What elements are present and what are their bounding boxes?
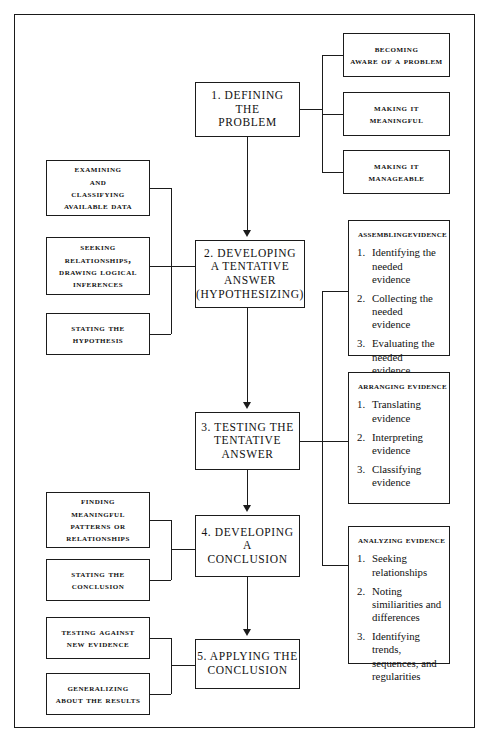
input-4b-line-2: Conclusion [72,580,124,592]
step-2-line-1: 2. Developing [204,247,296,261]
input-4a-line-3: Patterns or [71,520,126,532]
step-3-line-1: 3. Testing the [201,421,294,435]
step-5-line-1: 5. Applying the [197,650,298,664]
input-4a-line-4: Relationships [66,532,130,544]
connector-step5-input-trunk [171,638,172,694]
panel-assembling-list: 1. Identifying the needed evidence 2. Co… [357,246,443,383]
input-2b-line-4: Inferences [73,278,123,290]
input-finding-meaningful-patterns-or-relationships[interactable]: Finding Meaningful Patterns or Relations… [46,492,150,548]
panel-arranging-evidence[interactable]: Arranging Evidence 1. Translating eviden… [348,372,450,504]
connector-step3-to-evidence-stub [300,441,322,442]
connector-step4-input-trunk [171,520,172,580]
step-1-defining-the-problem[interactable]: 1. Defining the Problem [195,82,300,137]
connector-input-4b [150,580,171,581]
input-seeking-relationships-drawing-logical-inferences[interactable]: Seeking Relationships, Drawing Logical I… [46,237,150,295]
connector-step4-input-into-box [171,549,195,550]
step-1-line-2: the [235,103,259,117]
list-item: 2. Interpreting evidence [357,431,443,457]
step-2-line-4: (Hypothesizing) [196,288,304,302]
item-text: Identifying the needed evidence [372,246,436,284]
item-text: Collecting the needed evidence [372,292,433,330]
input-generalizing-about-the-results[interactable]: Generalizing about the Results [46,673,150,715]
item-number: 3. [357,463,365,476]
item-text: Seeking relationships [372,552,427,577]
input-testing-against-new-evidence[interactable]: Testing against New Evidence [46,617,150,659]
item-text: Noting similiarities and differences [372,585,441,623]
input-2c-line-1: Stating the [71,322,124,334]
input-5a-line-2: New Evidence [67,638,129,650]
arrow-step2-to-step3 [243,402,251,409]
item-text: Translating evidence [372,398,421,423]
step-5-applying-the-conclusion[interactable]: 5. Applying the Conclusion [195,639,300,689]
item-number: 2. [357,292,365,305]
step-4-line-2: a [243,539,252,553]
item-number: 3. [357,630,365,643]
branch-3-line-2: Manageable [369,172,425,184]
connector-input-5b [150,694,171,695]
connector-evidence-arranging [322,441,348,442]
step-4-developing-a-conclusion[interactable]: 4. Developing a Conclusion [195,515,300,577]
connector-step4-to-step5 [247,577,248,629]
branch-3-line-1: Making It [374,160,419,172]
input-5a-line-1: Testing against [61,626,134,638]
step-3-testing-the-tentative-answer[interactable]: 3. Testing the Tentative Answer [195,412,300,470]
input-2c-line-2: Hypothesis [73,334,124,346]
step-1-line-1: 1. Defining [211,89,283,103]
connector-step2-to-step3 [247,308,248,402]
list-item: 1. Identifying the needed evidence [357,246,443,286]
input-5b-line-1: Generalizing [67,682,128,694]
connector-evidence-assembling [322,291,348,292]
branch-becoming-aware-of-a-problem[interactable]: Becoming Aware of a Problem [343,33,450,77]
item-number: 1. [357,398,365,411]
list-item: 1. Seeking relationships [357,552,443,578]
branch-2-line-1: Making It [374,102,419,114]
input-2b-line-3: Drawing Logical [59,266,137,278]
input-4b-line-1: Stating the [71,568,124,580]
step-4-line-1: 4. Developing [201,526,293,540]
input-2a-line-3: Classifying [71,188,124,200]
connector-input-2c [150,334,171,335]
connector-step2-input-trunk [171,188,172,334]
connector-input-5a [150,638,171,639]
branch-making-it-meaningful[interactable]: Making It Meaningful [343,92,450,136]
arrow-step1-to-step2 [243,230,251,237]
connector-input-2a [150,188,171,189]
panel-analyzing-evidence[interactable]: Analyzing Evidence 1. Seeking relationsh… [348,526,450,664]
branch-1-line-2: Aware of a Problem [350,55,442,67]
input-2a-line-2: and [90,176,107,188]
input-5b-line-2: about the Results [56,694,141,706]
input-stating-the-hypothesis[interactable]: Stating the Hypothesis [46,313,150,355]
step-4-line-3: Conclusion [207,553,287,567]
input-2b-line-1: Seeking [80,241,115,253]
list-item: 3. Evaluating the needed evidence [357,337,443,377]
input-2a-line-1: Examining [75,163,122,175]
panel-arranging-title: Arranging Evidence [358,380,443,392]
panel-assembling-title: AssemblingEvidence [358,228,443,240]
diagram-canvas: 1. Defining the Problem 2. Developing a … [0,0,490,745]
connector-branch-1 [322,55,343,56]
panel-assembling-evidence[interactable]: AssemblingEvidence 1. Identifying the ne… [348,220,450,356]
step-3-line-3: Answer [221,448,273,462]
input-examining-and-classifying-available-data[interactable]: Examining and Classifying Available Data [46,160,150,216]
step-1-line-3: Problem [218,116,277,130]
connector-evidence-analyzing [322,565,348,566]
item-text: Identifying trends, sequences, and regul… [372,630,437,682]
input-stating-the-conclusion[interactable]: Stating the Conclusion [46,559,150,601]
item-number: 2. [357,431,365,444]
item-number: 3. [357,337,365,350]
input-2a-line-4: Available Data [64,200,132,212]
connector-branch-2 [322,114,343,115]
branch-making-it-manageable[interactable]: Making It Manageable [343,150,450,194]
input-4a-line-2: Meaningful [71,508,125,520]
list-item: 1. Translating evidence [357,398,443,424]
step-2-developing-a-tentative-answer[interactable]: 2. Developing a Tentative Answer (Hypoth… [195,240,305,308]
step-2-line-2: a Tentative [211,260,290,274]
item-number: 1. [357,246,365,259]
step-5-line-2: Conclusion [207,664,287,678]
step-2-line-3: Answer [224,274,276,288]
connector-step1-to-step2 [247,137,248,230]
item-text: Interpreting evidence [372,431,423,456]
connector-step1-to-branches-stub [300,109,322,110]
panel-arranging-list: 1. Translating evidence 2. Interpreting … [357,398,443,495]
step-3-line-2: Tentative [214,434,281,448]
